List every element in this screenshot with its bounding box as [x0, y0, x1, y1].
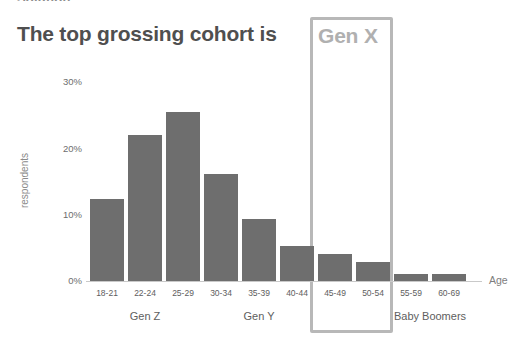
bar [432, 274, 466, 281]
bar [204, 174, 238, 281]
x-tick-label: 25-29 [162, 288, 204, 298]
bar [242, 219, 276, 281]
bar [318, 254, 352, 281]
y-tick-label: 10% [52, 209, 82, 220]
bar-chart: respondents 0%10%20%30% Age 18-2122-2425… [0, 0, 531, 353]
bar [356, 262, 390, 281]
x-axis-label: Age [489, 274, 508, 286]
group-label: Gen Z [85, 310, 205, 322]
group-label: Baby Boomers [370, 310, 490, 322]
chart-screenshot: Solution: The top grossing cohort is Gen… [0, 0, 531, 353]
x-tick-label: 60-69 [428, 288, 470, 298]
x-tick-label: 18-21 [86, 288, 128, 298]
bar [280, 246, 314, 281]
y-axis-label: respondents [19, 136, 30, 226]
x-tick-label: 55-59 [390, 288, 432, 298]
y-tick-label: 0% [52, 275, 82, 286]
bar [166, 112, 200, 281]
group-label: Gen Y [199, 310, 319, 322]
x-axis-line [86, 281, 482, 282]
x-tick-label: 45-49 [314, 288, 356, 298]
x-tick-label: 40-44 [276, 288, 318, 298]
x-tick-label: 30-34 [200, 288, 242, 298]
bar [90, 199, 124, 281]
x-tick-label: 22-24 [124, 288, 166, 298]
y-tick-label: 30% [52, 76, 82, 87]
bar [394, 274, 428, 281]
bar [128, 135, 162, 281]
x-tick-label: 35-39 [238, 288, 280, 298]
x-tick-label: 50-54 [352, 288, 394, 298]
y-tick-label: 20% [52, 143, 82, 154]
